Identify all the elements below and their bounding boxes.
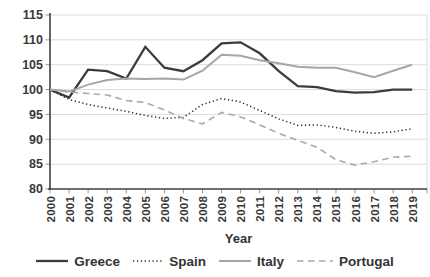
x-tick-label: 2000 [45,196,57,222]
legend-label: Greece [74,254,120,269]
line-chart-figure: 1151101051009590858020002001200220032004… [0,0,430,277]
legend-label: Portugal [339,254,394,269]
x-axis-title: Year [50,231,427,246]
series-line-portugal [50,90,412,166]
legend-label: Spain [169,254,206,269]
y-tick-label: 80 [29,182,43,196]
x-tick-label: 2003 [102,196,114,222]
legend-line-sample [133,258,163,264]
x-tick-label: 2016 [350,196,362,222]
x-tick-label: 2007 [178,196,190,222]
x-tick-label: 2002 [83,196,95,222]
legend-item-portugal: Portugal [297,254,394,269]
x-tick-label: 2011 [254,196,266,222]
x-tick-label: 2004 [121,196,133,223]
x-tick-label: 2015 [330,196,342,223]
x-tick-label: 2005 [140,196,152,223]
y-tick-label: 90 [29,133,43,147]
legend-item-italy: Italy [219,254,284,269]
legend-item-greece: Greece [36,254,120,269]
x-tick-label: 2014 [311,196,323,223]
x-tick-label: 2017 [369,196,381,222]
y-tick-label: 95 [29,108,43,122]
x-tick-label: 2019 [407,196,419,222]
x-tick-label: 2010 [235,196,247,222]
series-line-spain [50,90,412,134]
x-tick-label: 2008 [197,196,209,223]
legend-line-sample [297,258,333,264]
legend-line-sample [36,258,68,264]
legend-label: Italy [257,254,284,269]
y-tick-label: 85 [29,157,43,171]
x-tick-label: 2013 [292,196,304,222]
series-line-italy [50,55,412,92]
x-tick-label: 2006 [159,196,171,222]
y-tick-label: 105 [22,58,43,72]
x-tick-label: 2001 [64,196,76,223]
x-tick-label: 2009 [216,196,228,222]
x-tick-label: 2012 [273,196,285,222]
y-tick-label: 115 [23,8,43,22]
legend-line-sample [219,258,251,264]
chart-legend: GreeceSpainItalyPortugal [0,250,430,272]
x-tick-label: 2018 [388,196,400,223]
y-tick-label: 100 [22,83,43,97]
y-tick-label: 110 [23,33,43,47]
legend-item-spain: Spain [133,254,206,269]
